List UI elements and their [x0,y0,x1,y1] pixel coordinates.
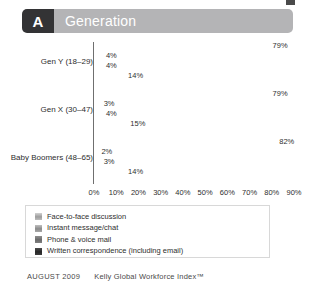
x-tick-label: 40% [175,188,190,197]
header-badge-label: A [33,13,44,30]
footer-source: Kelly Global Workforce Index™ [94,272,204,281]
x-tick-label: 0% [89,188,100,197]
corner-mark [286,0,295,5]
legend-swatch [35,213,42,220]
x-tick-label: 70% [242,188,257,197]
page-title: Generation [65,13,136,29]
header-bar: Generation [54,9,293,33]
bar-row: 2% [93,148,97,155]
legend-list: Face-to-face discussionInstant message/c… [35,211,183,257]
bar-row: 79% [93,90,269,97]
bar-row: 3% [93,100,100,107]
x-tick-label: 30% [153,188,168,197]
bar-row: 4% [93,52,102,59]
bar-value-label: 4% [106,109,117,118]
legend-label: Written correspondence (including email) [47,247,183,255]
bar-value-label: 82% [279,137,294,146]
category-label: Baby Boomers (48–65) [7,154,93,162]
bar-row: 4% [93,62,102,69]
legend-label: Phone & voice mail [47,236,111,244]
bar-row: 14% [93,72,124,79]
legend-item[interactable]: Face-to-face discussion [35,211,183,222]
x-tick-label: 10% [109,188,124,197]
legend-swatch [35,248,42,255]
legend-item[interactable]: Written correspondence (including email) [35,246,183,257]
bar-value-label: 79% [273,89,288,98]
bar-row: 82% [93,138,275,145]
chart-legend: Face-to-face discussionInstant message/c… [25,205,270,258]
bar-value-label: 2% [101,147,112,156]
x-tick-label: 60% [220,188,235,197]
category-label: Gen Y (18–29) [7,58,93,66]
legend-label: Face-to-face discussion [47,213,126,221]
x-tick-label: 20% [131,188,146,197]
legend-item[interactable]: Phone & voice mail [35,234,183,245]
x-tick-label: 80% [264,188,279,197]
legend-swatch [35,225,42,232]
bar-value-label: 3% [104,99,115,108]
bar-value-label: 14% [128,71,143,80]
legend-item[interactable]: Instant message/chat [35,223,183,234]
x-tick-label: 90% [286,188,301,197]
x-tick-label: 50% [198,188,213,197]
bar-value-label: 4% [106,51,117,60]
bar-row: 3% [93,158,100,165]
bar-value-label: 14% [128,167,143,176]
footer-date: AUGUST 2009 [27,272,80,281]
bar-value-label: 4% [106,61,117,70]
legend-label: Instant message/chat [47,224,118,232]
header-badge: A [22,9,54,33]
bar-row: 14% [93,168,124,175]
bar-value-label: 15% [130,119,145,128]
category-label: Gen X (30–47) [7,106,93,114]
bar-row: 4% [93,110,102,117]
x-axis-ticks: 0%10%20%30%40%50%60%70%80%90% [93,188,293,200]
chart-header: A Generation [22,9,293,33]
bar-value-label: 79% [273,41,288,50]
chart-footer: AUGUST 2009 Kelly Global Workforce Index… [27,272,204,281]
bar-row: 15% [93,120,126,127]
bar-row: 79% [93,42,269,49]
legend-swatch [35,236,42,243]
chart-plot-area: Gen Y (18–29)79%4%4%14%Gen X (30–47)79%3… [0,40,311,192]
bar-value-label: 3% [104,157,115,166]
